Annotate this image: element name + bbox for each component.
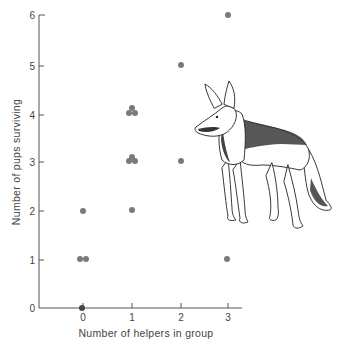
y-axis-title: Number of pups surviving <box>10 99 22 225</box>
x-tick-2: 2 <box>178 312 184 323</box>
point-1-4a <box>126 110 132 116</box>
point-1-4b <box>132 110 138 116</box>
y-tick-labels: 6 5 4 3 2 1 0 <box>29 10 35 314</box>
jackal-illustration <box>195 81 331 228</box>
y-tick-5: 5 <box>29 61 35 72</box>
y-tick-6: 6 <box>29 10 35 21</box>
y-tick-3: 3 <box>29 157 35 168</box>
point-3-1 <box>224 256 230 262</box>
point-2-5 <box>178 62 184 68</box>
point-1-3c <box>129 154 135 160</box>
scatter-chart: 6 5 4 3 2 1 0 0 1 2 3 Number of helpers … <box>0 0 347 351</box>
point-1-2 <box>129 207 135 213</box>
point-0-1b <box>83 256 89 262</box>
x-tick-3: 3 <box>225 312 231 323</box>
point-0-1a <box>77 256 83 262</box>
data-points <box>77 12 231 311</box>
point-2-3 <box>178 158 184 164</box>
x-tick-1: 1 <box>129 312 135 323</box>
y-tick-4: 4 <box>29 110 35 121</box>
point-1-4c <box>129 105 135 111</box>
point-0-0 <box>79 305 85 311</box>
y-tick-1: 1 <box>29 255 35 266</box>
x-axis <box>39 303 242 308</box>
x-axis-title: Number of helpers in group <box>78 327 213 339</box>
y-tick-0: 0 <box>29 303 35 314</box>
y-tick-2: 2 <box>29 206 35 217</box>
x-tick-labels: 0 1 2 3 <box>80 312 231 323</box>
point-0-2 <box>80 208 86 214</box>
x-tick-0: 0 <box>80 312 86 323</box>
point-3-6 <box>225 12 231 18</box>
y-axis <box>39 15 45 308</box>
